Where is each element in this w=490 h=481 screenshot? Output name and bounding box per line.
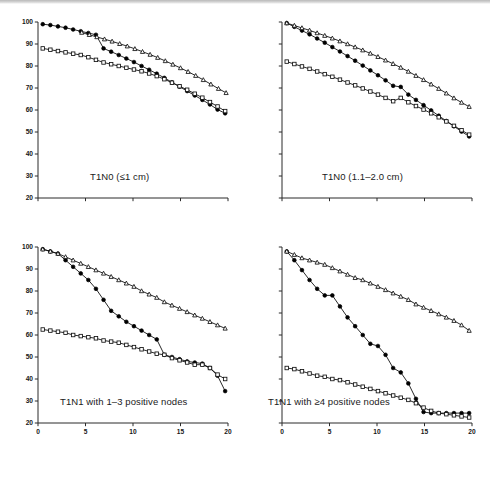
data-point [369, 69, 373, 73]
data-point [170, 356, 174, 360]
data-point [369, 387, 373, 391]
data-point [56, 330, 60, 334]
data-point [345, 42, 349, 46]
data-point [406, 298, 410, 302]
data-point [300, 268, 304, 272]
data-point [125, 320, 129, 324]
data-point [71, 258, 75, 262]
data-point [361, 278, 365, 282]
data-point [459, 100, 463, 104]
y-tick-label: 100 [22, 243, 33, 250]
series-filled-circle [285, 21, 471, 138]
data-point [125, 66, 129, 70]
data-point [369, 342, 373, 346]
y-tick-label: 50 [26, 128, 34, 135]
data-point [315, 260, 319, 264]
series-open-square [41, 328, 227, 381]
data-point [331, 45, 335, 49]
data-point [86, 265, 90, 269]
x-tick-label: 5 [84, 428, 88, 435]
data-point [300, 65, 304, 69]
data-point [353, 84, 357, 88]
data-point [285, 60, 289, 64]
data-point [102, 298, 106, 302]
data-point [429, 409, 433, 413]
data-point [133, 47, 137, 51]
data-point [156, 55, 160, 59]
data-point [208, 366, 212, 370]
data-point [323, 375, 327, 379]
data-point [452, 124, 456, 128]
data-point [300, 370, 304, 374]
data-point [307, 28, 311, 32]
data-point [208, 100, 212, 104]
data-point [315, 70, 319, 74]
data-point [345, 272, 349, 276]
data-point [293, 258, 297, 262]
data-point [452, 414, 456, 418]
series-open-triangle [285, 249, 472, 332]
data-point [177, 306, 181, 310]
data-point [323, 294, 327, 298]
data-point [41, 328, 45, 332]
y-tick-label: 80 [26, 287, 34, 294]
data-point [139, 289, 143, 293]
data-point [94, 268, 98, 272]
data-point [376, 93, 380, 97]
data-point [117, 53, 121, 57]
data-point [200, 316, 204, 320]
y-tick-label: 90 [26, 265, 34, 272]
data-point [384, 353, 388, 357]
data-point [437, 86, 441, 90]
data-point [391, 99, 395, 103]
data-point [399, 294, 403, 298]
data-point [102, 37, 106, 41]
data-point [331, 75, 335, 79]
data-point [178, 359, 182, 363]
data-point [361, 385, 365, 389]
data-point [414, 302, 418, 306]
data-point [109, 62, 113, 66]
data-point [331, 377, 335, 381]
y-tick-label: 40 [26, 150, 34, 157]
y-tick-label: 60 [26, 106, 34, 113]
panel-title-bottom-right: T1N1 with ≥4 positive nodes [268, 396, 390, 407]
data-point [140, 70, 144, 74]
data-point [194, 73, 198, 77]
data-point [338, 269, 342, 273]
data-point [140, 348, 144, 352]
data-point [140, 64, 144, 68]
data-point [338, 78, 342, 82]
data-point [109, 275, 113, 279]
data-point [338, 39, 342, 43]
data-point [361, 48, 365, 52]
panel-bottom-right: 05101520 [258, 241, 476, 439]
data-point [407, 93, 411, 97]
data-point [155, 338, 159, 342]
data-point [323, 72, 327, 76]
data-point [383, 288, 387, 292]
data-point [376, 389, 380, 393]
data-point [391, 366, 395, 370]
data-point [338, 50, 342, 54]
data-point [315, 31, 319, 35]
data-point [132, 324, 136, 328]
data-point [132, 284, 136, 288]
data-point [292, 23, 296, 27]
data-point [330, 36, 334, 40]
data-point [467, 133, 471, 137]
data-point [422, 406, 426, 410]
data-point [132, 60, 136, 64]
data-point [201, 363, 205, 367]
data-point [376, 73, 380, 77]
data-point [437, 312, 441, 316]
data-point [216, 86, 220, 90]
data-point [216, 373, 220, 377]
data-point [445, 412, 449, 416]
data-point [94, 337, 98, 341]
y-tick-label: 20 [26, 194, 34, 201]
data-point [361, 64, 365, 68]
data-point [376, 344, 380, 348]
data-point [399, 65, 403, 69]
data-point [94, 287, 98, 291]
